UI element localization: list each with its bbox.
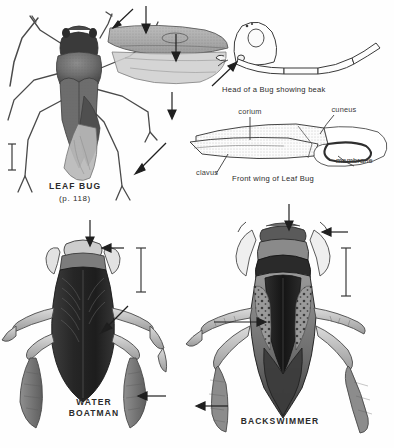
backswimmer-label: BACKSWIMMER [241,417,320,427]
arrow-backswimmer-foreleg [322,228,348,236]
arrow-head-beak [212,62,237,86]
leaf-bug-page-ref: (p. 118) [59,194,91,203]
water-boatman-label-line1: WATER [76,398,112,408]
figure-head-of-bug [206,18,386,90]
bug-head-drawing [216,22,277,66]
wing-part-label-clavus: clavus [196,169,218,178]
wing-part-label-cuneus: cuneus [331,106,356,115]
wing-part-label-membrane: membrane [336,157,373,166]
figure-front-wing [188,118,394,176]
arrow-leafbug-antenna [113,9,133,28]
water-boatman-label-line2: BOATMAN [69,409,120,419]
figure-leaf-bug [0,0,230,215]
water-boatman-body [52,240,115,402]
leaf-bug-label: LEAF BUG [49,182,101,192]
scale-bar-boatman [136,248,146,292]
front-wing-caption: Front wing of Leaf Bug [232,175,314,184]
leaf-bug-body [56,26,101,180]
scale-bar-leaf-bug [8,144,16,170]
figure-backswimmer [190,208,394,433]
field-guide-plate: LEAF BUG (p. 118) [0,0,394,448]
head-of-bug-caption: Head of a Bug showing beak [222,86,326,95]
arrow-leafbug-leg [135,143,166,174]
arrow-leafbug-membrane [168,92,176,119]
wing-part-label-corium: corium [238,108,261,117]
scale-bar-backswimmer [341,248,351,296]
